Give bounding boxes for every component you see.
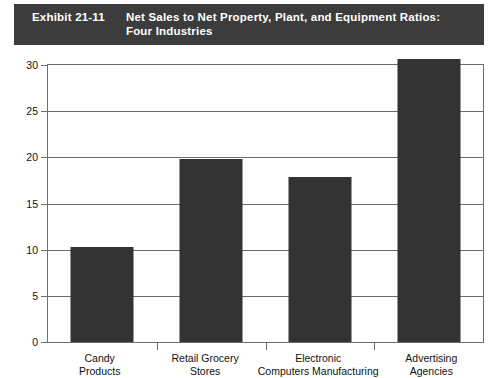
x-axis-category-line: Agencies [379,365,484,378]
x-axis-category-line: Candy [47,352,152,365]
exhibit-title-banner: Exhibit 21-11 Net Sales to Net Property,… [14,4,484,45]
x-axis-tick-mark [266,343,267,350]
y-axis-tick-label: 5 [4,290,38,302]
x-axis-category-label: AdvertisingAgencies [379,352,484,378]
y-axis-tick-label: 20 [4,151,38,163]
y-axis-tick-label: 0 [4,336,38,348]
bar[interactable] [288,177,351,342]
bar-slot [157,65,266,342]
exhibit-title-line-2: Four Industries [126,24,440,38]
exhibit-title-line-1: Net Sales to Net Property, Plant, and Eq… [126,11,440,23]
y-axis-tick-label: 10 [4,244,38,256]
x-axis-category-label: CandyProducts [47,352,152,378]
x-axis-tick-mark [374,343,375,350]
x-axis-category-line: Electronic [258,352,379,365]
bar-slot [48,65,157,342]
bar-slot [266,65,375,342]
bar[interactable] [71,247,134,342]
x-axis-labels: CandyProductsRetail GroceryStoresElectro… [47,352,484,378]
exhibit-title-text: Net Sales to Net Property, Plant, and Eq… [105,10,440,38]
bar-chart: 051015202530 CandyProductsRetail Grocery… [0,45,496,361]
x-axis-tick-mark [157,343,158,350]
x-axis-category-line: Advertising [379,352,484,365]
x-axis-category-label: Retail GroceryStores [152,352,257,378]
x-axis-category-line: Stores [152,365,257,378]
bar[interactable] [180,159,243,342]
exhibit-number-label: Exhibit 21-11 [14,10,105,24]
bars-container [48,65,483,342]
x-axis-category-line: Products [47,365,152,378]
y-axis-tick-label: 25 [4,105,38,117]
y-axis-tick-label: 30 [4,59,38,71]
x-axis-category-label: ElectronicComputers Manufacturing [258,352,379,378]
bar-slot [374,65,483,342]
x-axis-category-line: Computers Manufacturing [258,365,379,378]
y-axis-tick-label: 15 [4,198,38,210]
bar[interactable] [397,59,460,342]
x-axis-category-line: Retail Grocery [152,352,257,365]
y-axis: 051015202530 [0,45,38,361]
